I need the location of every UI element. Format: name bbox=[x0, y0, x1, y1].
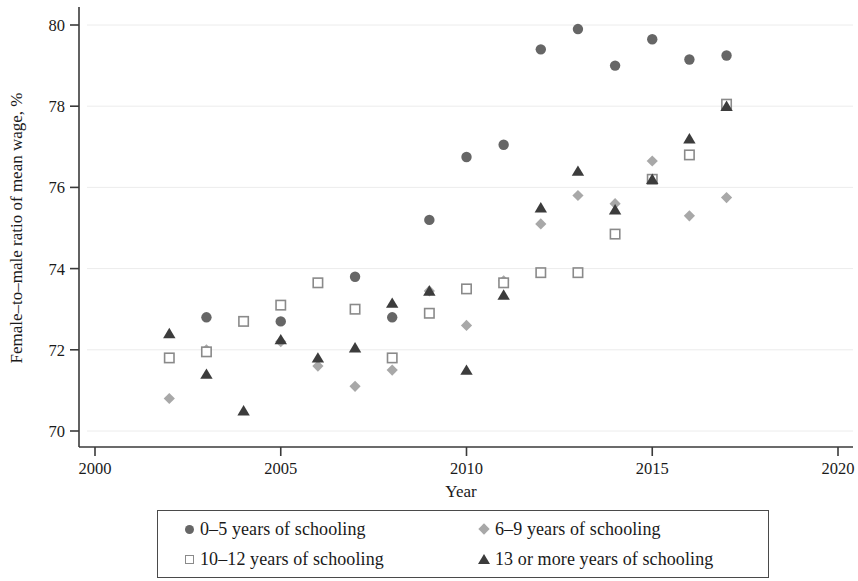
chart-canvas: 70727476788020002005201020152020 Female–… bbox=[0, 0, 858, 581]
data-point bbox=[349, 381, 360, 392]
legend-item-13-plus-years: 13 or more years of schooling bbox=[463, 544, 768, 574]
data-point bbox=[572, 190, 583, 201]
legend-label-6-9-years: 6–9 years of schooling bbox=[495, 519, 661, 540]
data-point bbox=[202, 347, 211, 356]
data-point bbox=[275, 334, 287, 344]
data-point bbox=[313, 278, 322, 287]
series-1 bbox=[164, 155, 732, 404]
data-point bbox=[461, 152, 471, 162]
data-point bbox=[683, 133, 695, 143]
data-point bbox=[424, 215, 434, 225]
legend-item-0-5-years: 0–5 years of schooling bbox=[158, 514, 463, 544]
legend-item-6-9-years: 6–9 years of schooling bbox=[463, 514, 768, 544]
y-tick-label: 76 bbox=[49, 178, 66, 197]
legend-item-10-12-years: 10–12 years of schooling bbox=[158, 544, 463, 574]
filled-triangle-icon bbox=[473, 554, 495, 564]
data-point bbox=[572, 165, 584, 175]
data-point bbox=[610, 60, 620, 70]
data-point bbox=[164, 393, 175, 404]
data-point bbox=[350, 305, 359, 314]
x-tick-label: 2005 bbox=[264, 459, 297, 478]
data-point bbox=[386, 297, 398, 307]
scatter-chart-figure: 70727476788020002005201020152020 Female–… bbox=[0, 0, 858, 581]
data-point bbox=[721, 192, 732, 203]
chart-legend: 0–5 years of schooling 6–9 years of scho… bbox=[157, 510, 769, 578]
y-tick-label: 72 bbox=[49, 341, 66, 360]
series-3 bbox=[163, 101, 733, 416]
y-tick-label: 70 bbox=[49, 422, 66, 441]
data-point bbox=[349, 342, 361, 352]
axis-ticks: 70727476788020002005201020152020 bbox=[49, 16, 855, 478]
data-point bbox=[497, 289, 509, 299]
x-tick-label: 2015 bbox=[636, 459, 669, 478]
y-tick-label: 74 bbox=[49, 260, 66, 279]
data-point bbox=[239, 317, 248, 326]
data-point bbox=[312, 352, 324, 362]
data-point bbox=[536, 268, 545, 277]
data-point bbox=[573, 268, 582, 277]
data-point bbox=[535, 202, 547, 212]
data-point bbox=[276, 316, 286, 326]
x-tick-label: 2020 bbox=[822, 459, 855, 478]
data-point bbox=[684, 210, 695, 221]
data-point bbox=[647, 34, 657, 44]
data-point bbox=[610, 229, 619, 238]
series-2 bbox=[165, 99, 732, 362]
legend-label-0-5-years: 0–5 years of schooling bbox=[200, 519, 366, 540]
data-point bbox=[535, 218, 546, 229]
data-point bbox=[163, 328, 175, 338]
filled-circle-icon bbox=[178, 525, 200, 534]
data-point bbox=[499, 278, 508, 287]
data-point bbox=[573, 24, 583, 34]
y-tick-label: 80 bbox=[49, 16, 66, 35]
legend-label-10-12-years: 10–12 years of schooling bbox=[200, 549, 384, 570]
data-point bbox=[609, 204, 621, 214]
data-point bbox=[647, 155, 658, 166]
data-point bbox=[276, 300, 285, 309]
data-point bbox=[387, 365, 398, 376]
open-square-icon bbox=[178, 555, 200, 564]
data-point bbox=[462, 284, 471, 293]
grid-lines bbox=[87, 25, 853, 431]
data-point bbox=[237, 405, 249, 415]
data-point bbox=[201, 312, 211, 322]
data-point bbox=[498, 140, 508, 150]
axis-lines bbox=[79, 7, 853, 447]
y-tick-label: 78 bbox=[49, 97, 66, 116]
data-point bbox=[721, 50, 731, 60]
x-tick-label: 2000 bbox=[79, 459, 112, 478]
x-axis-label: Year bbox=[445, 482, 477, 501]
data-point bbox=[684, 54, 694, 64]
data-point bbox=[536, 44, 546, 54]
data-point bbox=[165, 353, 174, 362]
data-point bbox=[387, 312, 397, 322]
x-tick-label: 2010 bbox=[450, 459, 483, 478]
data-point bbox=[460, 364, 472, 374]
data-points bbox=[163, 24, 733, 416]
y-axis-label: Female–to–male ratio of mean wage, % bbox=[7, 93, 26, 364]
data-point bbox=[685, 150, 694, 159]
legend-label-13-plus-years: 13 or more years of schooling bbox=[495, 549, 713, 570]
data-point bbox=[425, 309, 434, 318]
data-point bbox=[350, 272, 360, 282]
data-point bbox=[200, 368, 212, 378]
data-point bbox=[388, 353, 397, 362]
data-point bbox=[461, 320, 472, 331]
filled-diamond-icon bbox=[473, 525, 495, 533]
